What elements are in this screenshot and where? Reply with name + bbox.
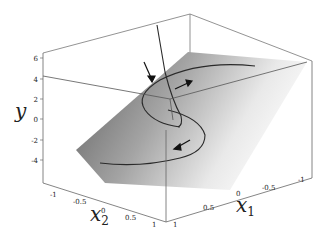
y-tick-neg4: -4 <box>31 157 38 165</box>
x1-axis-label: x1 <box>236 193 255 219</box>
x2-axis: -1 -0.5 0 0.5 1 x2 <box>50 191 156 228</box>
x2-tick-neg0.5: -0.5 <box>73 198 87 206</box>
x2-tick-1: 1 <box>152 221 156 228</box>
y-axis-label: y <box>14 99 27 123</box>
arrow-incoming-head <box>148 76 155 82</box>
x2-axis-label: x2 <box>90 202 109 228</box>
surface-plane <box>76 52 307 190</box>
y-axis: 6 4 2 0 -2 -4 y <box>14 55 43 165</box>
x1-tick-1: 1 <box>173 221 177 228</box>
y-tick-2: 2 <box>34 96 38 104</box>
x1-tick-neg0.5: -0.5 <box>262 184 276 192</box>
surface-plot-3d: 6 4 2 0 -2 -4 y -1 -0.5 0 0.5 1 x2 1 0.5… <box>0 0 327 228</box>
x1-tick-0.5: 0.5 <box>203 204 214 212</box>
y-tick-4: 4 <box>34 76 39 84</box>
y-tick-neg2: -2 <box>31 137 38 145</box>
y-tick-0: 0 <box>34 116 38 124</box>
y-tick-6: 6 <box>34 55 39 63</box>
x1-tick-neg1: -1 <box>298 176 305 184</box>
x2-tick-0.5: 0.5 <box>125 214 136 222</box>
x2-tick-neg1: -1 <box>50 191 57 199</box>
